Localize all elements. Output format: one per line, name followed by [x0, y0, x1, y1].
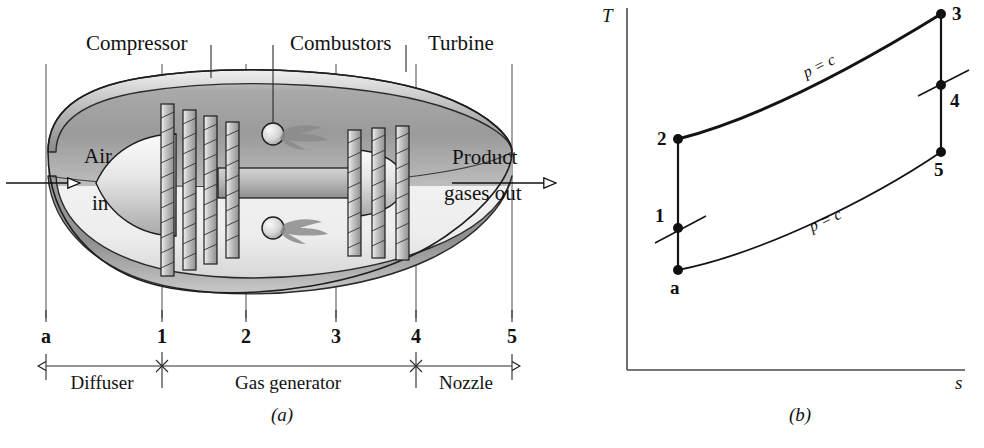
caption-a: (a) — [271, 404, 293, 426]
state-dot-3 — [936, 9, 946, 19]
panel-b: T s a 1 2 3 4 5 p — [602, 3, 969, 426]
product-gases-label-line2: gases out — [444, 181, 522, 205]
state-label-3: 3 — [952, 3, 962, 24]
isobar-label-lower: p = c — [805, 205, 844, 236]
station-ticks — [46, 310, 512, 322]
compressor-stage-2 — [183, 110, 196, 270]
t-axis-label: T — [602, 5, 614, 26]
state-dot-1 — [673, 223, 683, 233]
station-label-3: 3 — [331, 325, 341, 347]
isobar-a-5 — [678, 152, 941, 270]
state-dot-4 — [936, 80, 946, 90]
station-label-a: a — [41, 325, 51, 347]
station-numbers: a 1 2 3 4 5 — [41, 325, 517, 347]
turbine-stages — [348, 126, 409, 260]
turbine-stage-2 — [372, 128, 385, 258]
section-label-nozzle: Nozzle — [439, 372, 493, 393]
label-combustors: Combustors — [290, 31, 392, 55]
compressor-stage-1 — [161, 104, 174, 276]
state-point-dots — [673, 9, 946, 275]
air-in-label-line2: in — [92, 191, 109, 215]
state-label-a: a — [670, 277, 680, 298]
s-axis-label: s — [955, 372, 962, 393]
state-dot-5 — [936, 147, 946, 157]
figure-container: Air in Product gases out Compressor Comb… — [0, 0, 984, 448]
state-label-1: 1 — [655, 205, 665, 226]
state-dot-a — [673, 265, 683, 275]
section-labels: Diffuser Gas generator Nozzle — [71, 372, 493, 393]
station-label-5: 5 — [507, 325, 517, 347]
state-label-4: 4 — [950, 90, 960, 111]
station-label-2: 2 — [241, 325, 251, 347]
caption-b: (b) — [789, 404, 811, 426]
compressor-stage-4 — [226, 122, 239, 258]
label-compressor: Compressor — [86, 31, 188, 55]
label-turbine: Turbine — [428, 31, 494, 55]
state-label-5: 5 — [934, 159, 944, 180]
turbine-stage-3 — [396, 126, 409, 260]
compressor-stage-3 — [204, 116, 217, 264]
section-label-diffuser: Diffuser — [71, 372, 135, 393]
state-label-2: 2 — [657, 128, 667, 149]
product-gases-label-line1: Product — [452, 145, 517, 169]
station-label-1: 1 — [157, 325, 167, 347]
turbine-stage-1 — [348, 130, 361, 256]
state-point-labels: a 1 2 3 4 5 — [655, 3, 962, 298]
section-label-gas-generator: Gas generator — [235, 372, 342, 393]
panel-a: Air in Product gases out Compressor Comb… — [6, 31, 556, 426]
state-dot-2 — [673, 134, 683, 144]
station-label-4: 4 — [411, 325, 421, 347]
air-in-label-line1: Air — [84, 144, 112, 168]
turbojet-figure: Air in Product gases out Compressor Comb… — [0, 0, 984, 448]
